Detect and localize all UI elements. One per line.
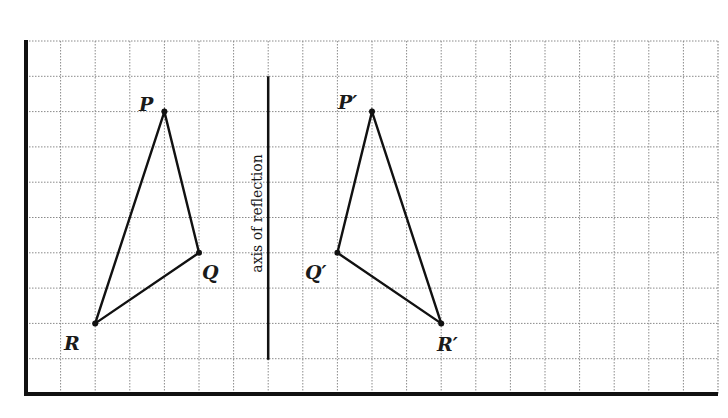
vertex-p <box>161 109 167 115</box>
label-q-prime: Q′ <box>305 261 327 283</box>
label-p: P <box>138 93 154 115</box>
vertex-q <box>196 250 202 256</box>
vertex-p-prime <box>369 109 375 115</box>
vertex-r-prime <box>438 320 444 326</box>
vertex-r <box>92 320 98 326</box>
label-p-prime: P′ <box>337 91 357 113</box>
label-r-prime: R′ <box>436 333 458 355</box>
label-q: Q <box>202 261 219 283</box>
label-r: R <box>63 332 80 354</box>
axis-of-reflection-label: axis of reflection <box>249 154 265 272</box>
reflection-diagram: axis of reflection P Q R P′ Q′ R′ <box>0 0 728 418</box>
vertex-q-prime <box>334 250 340 256</box>
